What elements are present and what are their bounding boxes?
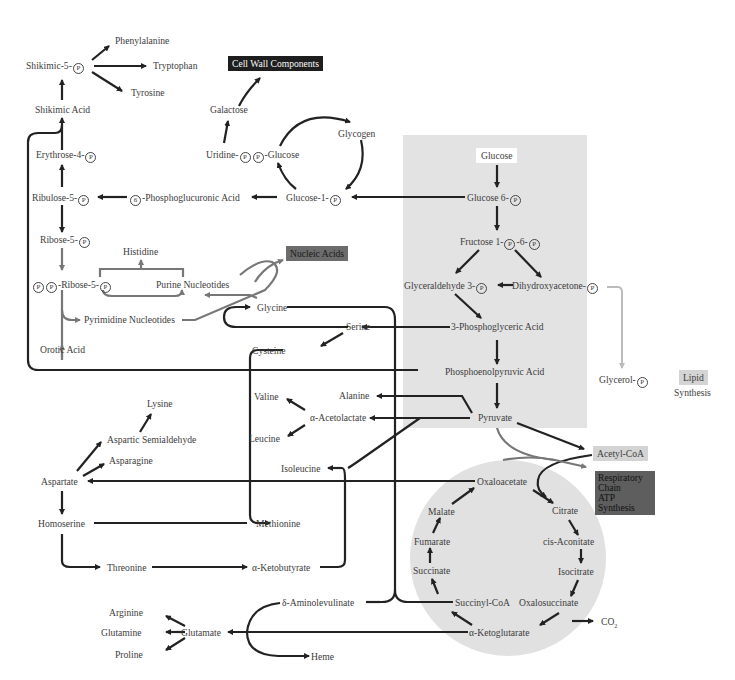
orotic-acid-label: Orotic Acid <box>40 344 85 355</box>
six-carbon-icon: 6 <box>130 195 141 206</box>
fumarate-label: Fumarate <box>414 536 450 547</box>
acetyl-coa-box: Acetyl-CoA <box>593 446 648 461</box>
glucose-6p-label: Glucose 6-P <box>467 192 522 206</box>
glyceraldehyde-3p-label: Glyceraldehyde 3-P <box>404 280 488 294</box>
phosphoenolpyruvic-acid-label: Phosphoenolpyruvic Acid <box>445 366 544 377</box>
co2-label: CO2 <box>601 616 617 632</box>
tyrosine-label: Tyrosine <box>131 87 164 98</box>
aspartic-semialdehyde-label: Aspartic Semialdehyde <box>107 434 196 445</box>
phosphate-icon: P <box>504 239 515 250</box>
phosphate-icon: P <box>330 195 341 206</box>
glucose-box: Glucose <box>476 148 517 163</box>
succinyl-coa-label: Succinyl-CoA <box>455 597 510 608</box>
phenylalanine-label: Phenylalanine <box>115 35 169 46</box>
citrate-label: Citrate <box>552 505 578 516</box>
succinate-label: Succinate <box>413 565 450 576</box>
nucleic-acids-box: Nucleic Acids <box>286 246 348 261</box>
erythrose-4p-label: Erythrose-4-P <box>36 149 97 163</box>
cis-aconitate-label: cis-Aconitate <box>543 536 594 547</box>
phosphate-icon: P <box>33 282 44 293</box>
pyrimidine-nucleotides-label: Pyrimidine Nucleotides <box>84 314 175 325</box>
lipid-box: Lipid <box>679 370 708 385</box>
fructose-bisphosphate-label: Fructose 1-P-6-P <box>460 236 541 250</box>
glucose-1p-label: Glucose-1-P <box>286 192 342 206</box>
prpp-label: PP-Ribose-5-P <box>32 279 112 293</box>
resp-line-4: Synthesis <box>598 503 652 513</box>
ribose-5p-label: Ribose-5-P <box>40 234 91 248</box>
purine-nucleotides-label: Purine Nucleotides <box>156 279 229 290</box>
respiratory-chain-box: Respiratory Chain ATP Synthesis <box>595 471 655 515</box>
pyruvate-label: Pyruvate <box>478 412 512 423</box>
phosphate-icon: P <box>79 237 90 248</box>
phosphate-icon: P <box>637 377 648 388</box>
proline-label: Proline <box>115 649 143 660</box>
heme-label: Heme <box>311 651 334 662</box>
isoleucine-label: Isoleucine <box>281 463 320 474</box>
aspartate-label: Aspartate <box>41 476 78 487</box>
valine-label: Valine <box>254 391 279 402</box>
glutamate-label: Glutamate <box>181 627 221 638</box>
lipid-synthesis-label: Synthesis <box>674 387 711 398</box>
3-phosphoglyceric-acid-label: 3-Phosphoglyceric Acid <box>451 321 543 332</box>
phosphate-icon: P <box>587 283 598 294</box>
alanine-label: Alanine <box>339 390 369 401</box>
phosphate-icon: P <box>510 195 521 206</box>
lysine-label: Lysine <box>147 398 173 409</box>
glutamine-label: Glutamine <box>101 627 142 638</box>
phosphate-icon: P <box>529 239 540 250</box>
ribulose-5p-label: Ribulose-5-P <box>32 192 90 206</box>
pathway-arrows <box>0 0 735 680</box>
udp-glucose-label: Uridine-PP-Glucose <box>206 149 299 163</box>
asparagine-label: Asparagine <box>109 455 153 466</box>
dihydroxyacetone-p-label: Dihydroxyacetone-P <box>512 280 599 294</box>
malate-label: Malate <box>428 506 455 517</box>
glycogen-label: Glycogen <box>338 128 375 139</box>
oxaloacetate-label: Oxaloacetate <box>477 476 527 487</box>
phosphate-icon: P <box>78 195 89 206</box>
phosphate-icon: P <box>73 63 84 74</box>
shikimic-acid-label: Shikimic Acid <box>35 104 90 115</box>
phosphate-icon: P <box>100 282 111 293</box>
arginine-label: Arginine <box>109 607 143 618</box>
phosphate-icon: P <box>476 283 487 294</box>
phosphate-icon: P <box>85 152 96 163</box>
methionine-label: Methionine <box>256 518 300 529</box>
glycerol-p-label: Glycerol-P <box>599 374 649 388</box>
glycine-label: Glycine <box>257 302 287 313</box>
leucine-label: Leucine <box>249 433 280 444</box>
aminolevulinate-label: δ-Aminolevulinate <box>282 597 354 608</box>
galactose-label: Galactose <box>210 104 248 115</box>
phosphate-icon: P <box>46 282 57 293</box>
ketoglutarate-label: α-Ketoglutarate <box>469 627 529 638</box>
histidine-label: Histidine <box>123 246 158 257</box>
cysteine-label: Cysteine <box>252 345 286 356</box>
homoserine-label: Homoserine <box>38 518 85 529</box>
tryptophan-label: Tryptophan <box>153 60 197 71</box>
threonine-label: Threonine <box>107 562 146 573</box>
oxalosuccinate-label: Oxalosuccinate <box>519 597 578 608</box>
acetolactate-label: α-Acetolactate <box>310 412 366 423</box>
serine-label: Serine <box>346 321 371 332</box>
phosphoglucuronic-acid-label: 6-Phosphoglucuronic Acid <box>129 192 240 206</box>
phosphate-icon: P <box>253 152 264 163</box>
isocitrate-label: Isocitrate <box>558 566 594 577</box>
phosphate-icon: P <box>240 152 251 163</box>
shikimic-5p-label: Shikimic-5-P <box>26 60 85 74</box>
ketobutyrate-label: α-Ketobutyrate <box>252 562 310 573</box>
cell-wall-components-box: Cell Wall Components <box>228 56 323 71</box>
